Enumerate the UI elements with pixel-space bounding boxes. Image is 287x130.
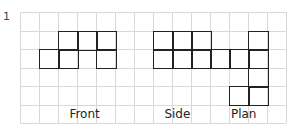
front-view-square	[77, 31, 98, 51]
front-view-square	[58, 49, 79, 69]
side-view-square	[153, 49, 174, 69]
front-view-square	[96, 49, 117, 69]
grid-line-horizontal	[20, 123, 286, 124]
plan-view-square	[248, 86, 269, 106]
plan-view-square	[229, 86, 250, 106]
front-view-square	[58, 31, 79, 51]
side-view-square	[191, 49, 212, 69]
plan-view-label: Plan	[231, 107, 257, 121]
side-view-square	[153, 31, 174, 51]
plan-view-square	[248, 68, 269, 88]
front-view-square	[96, 31, 117, 51]
side-view-square	[172, 49, 193, 69]
grid-line-vertical	[286, 12, 287, 123]
front-view-square	[39, 49, 60, 69]
front-view-label: Front	[69, 107, 99, 121]
side-view-label: Side	[164, 107, 190, 121]
plan-view-square	[248, 49, 269, 69]
plan-view-square	[229, 49, 250, 69]
question-number: 1	[3, 10, 10, 23]
side-view-square	[172, 31, 193, 51]
grid-line-horizontal	[20, 12, 286, 13]
plan-view-square	[248, 31, 269, 51]
side-view-square	[191, 31, 212, 51]
plan-view-square	[210, 49, 231, 69]
